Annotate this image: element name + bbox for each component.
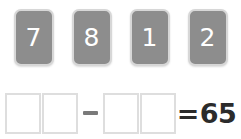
answer-slot-1[interactable] [5,93,41,134]
tile-digit: 7 [26,25,42,50]
tile-digit: 2 [200,25,216,50]
answer-slot-2[interactable] [42,93,78,134]
equals-sign: = [177,100,199,127]
number-tile-2[interactable]: 8 [72,9,112,66]
number-tile-1[interactable]: 7 [14,9,54,66]
tile-digit: 8 [84,25,100,50]
answer-slot-4[interactable] [140,93,176,134]
number-puzzle: 7 8 1 2 − [0,0,241,139]
equation: − = 65 [0,89,241,137]
tile-digit: 1 [142,25,158,50]
number-tile-3[interactable]: 1 [130,9,170,66]
right-operand [103,93,176,134]
result-group: = 65 [177,100,237,127]
answer-slot-3[interactable] [103,93,139,134]
result-value: 65 [200,100,237,127]
minus-operator-icon: − [83,111,98,115]
left-operand [5,93,78,134]
tile-tray: 7 8 1 2 [0,9,241,71]
number-tile-4[interactable]: 2 [188,9,228,66]
